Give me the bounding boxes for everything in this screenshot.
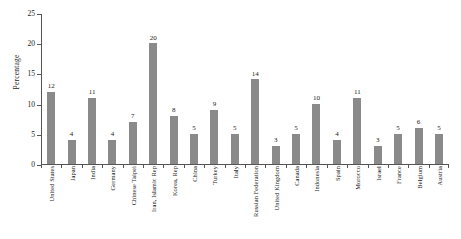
x-axis-category-label: France xyxy=(395,166,402,184)
bar[interactable]: 5 xyxy=(231,134,239,164)
x-axis-label-slot: Spain xyxy=(327,166,347,238)
x-axis-label-slot: Canada xyxy=(286,166,306,238)
x-axis-category-labels: United StatesJapanIndiaGermanyChinese Ta… xyxy=(41,166,449,238)
x-axis-label-slot: India xyxy=(82,166,102,238)
x-axis-label-slot: Germany xyxy=(102,166,122,238)
bar-slot: 12 xyxy=(41,14,61,164)
bar-slot: 6 xyxy=(408,14,428,164)
bar[interactable]: 11 xyxy=(88,98,96,164)
x-axis-label-slot: Iran, Islamic Rep xyxy=(143,166,163,238)
x-axis-label-slot: Japan xyxy=(61,166,81,238)
x-axis-category-label: Morocco xyxy=(354,166,361,190)
x-axis-category-label: Belgium xyxy=(415,166,422,189)
y-axis-tick-label: 10 xyxy=(13,101,35,109)
x-axis-label-slot: United Kingdom xyxy=(265,166,285,238)
bar[interactable]: 6 xyxy=(415,128,423,164)
bar-slot: 10 xyxy=(306,14,326,164)
bar-value-label: 12 xyxy=(48,83,55,90)
bar-slot: 4 xyxy=(61,14,81,164)
x-axis-category-label: India xyxy=(89,166,96,180)
bar-value-label: 7 xyxy=(131,113,135,120)
bar-slot: 5 xyxy=(388,14,408,164)
bar-value-label: 14 xyxy=(252,71,259,78)
bar-value-label: 11 xyxy=(89,89,96,96)
x-axis-category-label: Russian Federation xyxy=(252,166,259,217)
bar[interactable]: 9 xyxy=(210,110,218,164)
bar-value-label: 11 xyxy=(354,89,361,96)
bar[interactable]: 3 xyxy=(272,146,280,164)
bar-value-label: 10 xyxy=(313,95,320,102)
bar-slot: 5 xyxy=(429,14,449,164)
bar-slot: 14 xyxy=(245,14,265,164)
bar[interactable]: 5 xyxy=(394,134,402,164)
bar-slot: 11 xyxy=(347,14,367,164)
bar-value-label: 4 xyxy=(335,131,339,138)
bar[interactable]: 11 xyxy=(353,98,361,164)
bar-slot: 8 xyxy=(163,14,183,164)
y-axis-tick-label: 20 xyxy=(13,40,35,48)
bar[interactable]: 4 xyxy=(68,140,76,164)
bar-value-label: 20 xyxy=(150,35,157,42)
x-axis-label-slot: Turkey xyxy=(204,166,224,238)
y-axis-tick-label: 0 xyxy=(13,161,35,169)
bar-value-label: 6 xyxy=(417,119,421,126)
x-axis-category-label: United States xyxy=(48,166,55,202)
x-axis-category-label: Japan xyxy=(68,166,75,181)
bar-value-label: 4 xyxy=(70,131,74,138)
bar-value-label: 5 xyxy=(437,125,441,132)
x-axis-category-label: Korea, Rep xyxy=(170,166,177,196)
x-axis-label-slot: Korea, Rep xyxy=(163,166,183,238)
y-axis-tick-value: 10 xyxy=(13,101,35,109)
bar[interactable]: 5 xyxy=(292,134,300,164)
bar-value-label: 8 xyxy=(172,107,176,114)
bar-slot: 5 xyxy=(184,14,204,164)
x-axis-category-label: Chinese Taipei xyxy=(129,166,136,205)
x-axis-label-slot: Belgium xyxy=(408,166,428,238)
y-axis-tick-value: 0 xyxy=(13,161,35,169)
x-axis-category-label: Spain xyxy=(333,166,340,181)
bar-slot: 5 xyxy=(286,14,306,164)
bar-slot: 5 xyxy=(225,14,245,164)
bar[interactable]: 4 xyxy=(108,140,116,164)
bar[interactable]: 14 xyxy=(251,79,259,164)
bar-slot: 20 xyxy=(143,14,163,164)
x-axis-category-label: China xyxy=(191,166,198,182)
bar-value-label: 5 xyxy=(396,125,400,132)
y-axis-tick-value: 5 xyxy=(13,131,35,139)
bar-value-label: 5 xyxy=(233,125,237,132)
bar-slot: 7 xyxy=(123,14,143,164)
x-axis-label-slot: France xyxy=(388,166,408,238)
bar[interactable]: 8 xyxy=(170,116,178,164)
bar[interactable]: 12 xyxy=(47,92,55,164)
x-axis-category-label: United Kingdom xyxy=(272,166,279,211)
x-axis-category-label: Germany xyxy=(109,166,116,190)
x-axis-label-slot: Italy xyxy=(225,166,245,238)
bar-value-label: 5 xyxy=(294,125,298,132)
x-axis-category-label: Italy xyxy=(231,166,238,178)
x-axis-label-slot: Austria xyxy=(429,166,449,238)
bar[interactable]: 20 xyxy=(149,43,157,164)
bar[interactable]: 5 xyxy=(190,134,198,164)
bar[interactable]: 5 xyxy=(435,134,443,164)
bar-slot: 9 xyxy=(204,14,224,164)
bars-group: 12411472085951435104113565 xyxy=(41,14,449,164)
bar-slot: 11 xyxy=(82,14,102,164)
x-axis-category-label: Turkey xyxy=(211,166,218,185)
y-axis-tick-label: 25 xyxy=(13,10,35,18)
x-axis-label-slot: Indonesia xyxy=(306,166,326,238)
plot-area: 0510152025 12411472085951435104113565 xyxy=(41,14,449,165)
y-axis-tick-value: 20 xyxy=(13,40,35,48)
y-axis-tick-label: 15 xyxy=(13,70,35,78)
bar-value-label: 3 xyxy=(376,137,380,144)
bar[interactable]: 10 xyxy=(312,104,320,164)
bar[interactable]: 3 xyxy=(374,146,382,164)
x-axis-label-slot: Morocco xyxy=(347,166,367,238)
x-axis-label-slot: China xyxy=(184,166,204,238)
y-axis-tick-label: 5 xyxy=(13,131,35,139)
bar[interactable]: 7 xyxy=(129,122,137,164)
bar-chart: Percentage 0510152025 124114720859514351… xyxy=(0,0,461,239)
x-axis-category-label: Austria xyxy=(435,166,442,186)
bar-slot: 4 xyxy=(102,14,122,164)
x-axis-label-slot: United States xyxy=(41,166,61,238)
bar[interactable]: 4 xyxy=(333,140,341,164)
